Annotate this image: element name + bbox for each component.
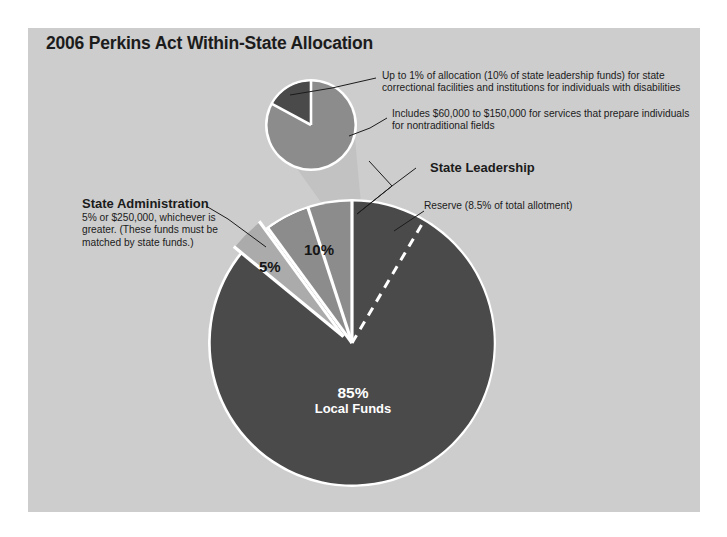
slice-label-state-administration: 5% bbox=[259, 258, 281, 275]
figure-stage: 2006 Perkins Act Within-State Allocation bbox=[0, 0, 727, 537]
slice-label-local-percent: 85% bbox=[293, 385, 413, 401]
annotation-correctional: Up to 1% of allocation (10% of state lea… bbox=[382, 70, 700, 95]
annotation-state-administration-body: 5% or $250,000, whichever is greater. (T… bbox=[82, 212, 250, 249]
annotation-state-administration-heading: State Administration bbox=[82, 196, 250, 211]
annotation-nontraditional: Includes $60,000 to $150,000 for service… bbox=[392, 108, 692, 133]
annotation-state-leadership: State Leadership bbox=[430, 160, 535, 175]
slice-label-state-leadership: 10% bbox=[304, 241, 334, 258]
slice-label-local-funds: 85% Local Funds bbox=[293, 385, 413, 417]
slice-label-local-name: Local Funds bbox=[293, 401, 413, 417]
annotation-reserve: Reserve (8.5% of total allotment) bbox=[424, 200, 684, 211]
main-pie bbox=[208, 199, 496, 487]
annotation-state-administration: State Administration 5% or $250,000, whi… bbox=[82, 196, 250, 249]
inset-pie bbox=[265, 79, 357, 171]
